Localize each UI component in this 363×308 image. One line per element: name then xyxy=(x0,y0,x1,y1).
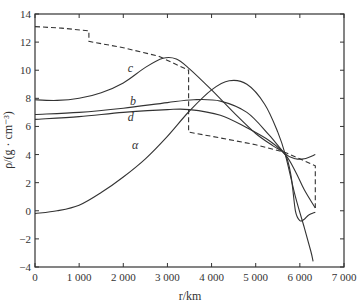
series-line-b xyxy=(35,100,315,160)
y-tick-label: 0 xyxy=(26,205,32,217)
curve-label-d: d xyxy=(128,110,135,124)
y-tick-label: −2 xyxy=(19,233,31,245)
y-axis-title: ρ/(g · cm⁻³) xyxy=(1,111,15,169)
data-series xyxy=(35,27,315,262)
x-tick-label: 0 xyxy=(32,271,38,283)
y-tick-label: 4 xyxy=(26,149,32,161)
curve-label-c: c xyxy=(128,61,134,75)
y-tick-label: −4 xyxy=(19,261,31,273)
plot-border xyxy=(35,14,344,267)
y-tick-label: 6 xyxy=(26,120,32,132)
y-tick-label: 14 xyxy=(20,8,32,20)
series-line-α xyxy=(35,80,313,261)
x-tick-label: 5 000 xyxy=(243,271,268,283)
y-tick-label: 10 xyxy=(20,64,32,76)
x-tick-label: 7 000 xyxy=(332,271,357,283)
y-tick-label: 2 xyxy=(26,177,32,189)
axis-ticks: 01 0002 0003 0004 0005 0006 0007 000−4−2… xyxy=(19,8,357,283)
series-line-d xyxy=(35,109,315,208)
curve-label-b: b xyxy=(130,94,136,108)
x-axis-title: r/km xyxy=(179,289,202,303)
y-tick-label: 12 xyxy=(20,36,31,48)
x-tick-label: 2 000 xyxy=(111,271,136,283)
x-tick-label: 4 000 xyxy=(199,271,224,283)
curve-label-α: α xyxy=(132,138,139,152)
x-tick-label: 6 000 xyxy=(287,271,312,283)
plot-frame xyxy=(35,14,344,267)
x-tick-label: 3 000 xyxy=(155,271,180,283)
density-profile-chart: 01 0002 0003 0004 0005 0006 0007 000−4−2… xyxy=(0,0,363,308)
y-tick-label: 8 xyxy=(26,92,32,104)
x-tick-label: 1 000 xyxy=(67,271,92,283)
